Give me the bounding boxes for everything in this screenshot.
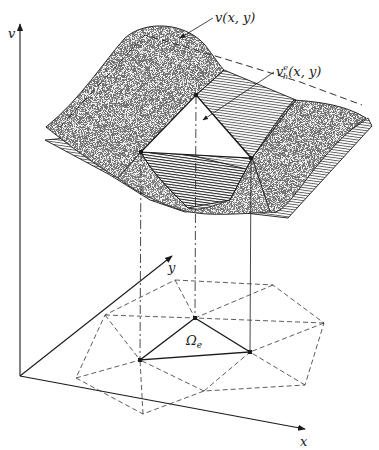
mesh-node-B [138,358,142,362]
node-top-3d [194,93,198,97]
label-approx-surface: veh(x, y) [276,63,321,81]
label-exact-surface: v(x, y) [215,10,255,25]
axis-label-y: y [167,260,176,275]
element-label: Ωe [185,333,202,350]
node-right-3d [249,156,253,160]
y-axis [20,256,172,376]
x-axis [20,376,305,429]
leader-exact [180,18,213,38]
axis-label-v: v [8,26,16,41]
mesh-node-A [193,316,197,320]
node-left-3d [139,150,143,154]
element-omega-e: Ωe [140,318,250,360]
axis-label-x: x [300,434,308,449]
mesh-node-C [248,350,252,354]
fem-diagram: v x y [0,0,379,450]
